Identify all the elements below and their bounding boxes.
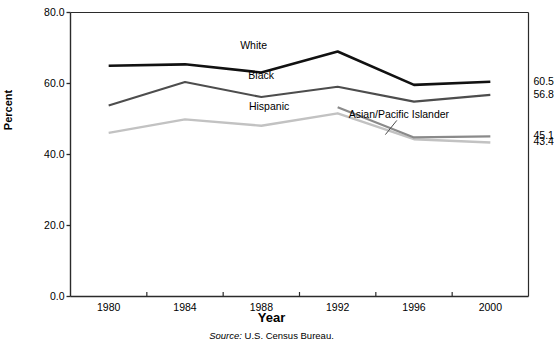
source-keyword: Source:	[209, 330, 242, 341]
end-value-black: 56.8	[534, 89, 554, 100]
end-value-white: 60.5	[534, 76, 554, 87]
axis-ticks	[67, 13, 453, 297]
source-text: U.S. Census Bureau.	[242, 330, 334, 341]
x-axis-title: Year	[0, 310, 543, 325]
series-label-asian-pacific-islander: Asian/Pacific Islander	[349, 109, 449, 120]
series-label-white: White	[240, 40, 267, 51]
series-lines	[109, 52, 491, 143]
source-note: Source: U.S. Census Bureau.	[0, 330, 543, 341]
axis-lines	[71, 13, 529, 297]
series-label-hispanic: Hispanic	[249, 101, 289, 112]
series-label-black: Black	[248, 70, 274, 81]
end-value-hispanic: 43.4	[534, 136, 554, 147]
